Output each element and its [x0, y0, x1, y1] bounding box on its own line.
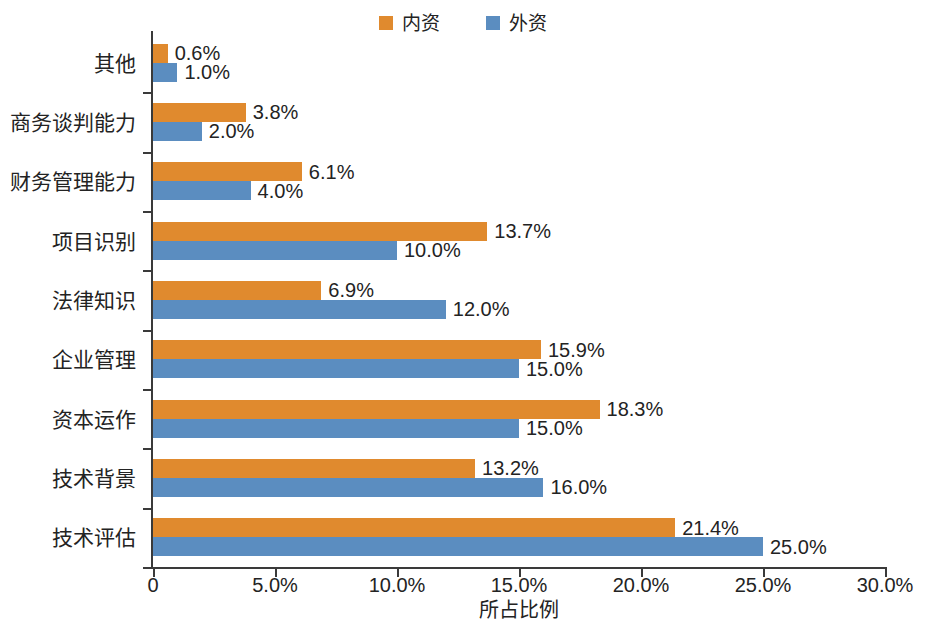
- bar[interactable]: [153, 340, 541, 359]
- y-axis-tick: [143, 567, 152, 569]
- category-label: 商务谈判能力: [10, 111, 136, 132]
- bar[interactable]: [153, 162, 302, 181]
- y-axis-tick: [143, 152, 152, 154]
- bar-group-内资: 0.6%: [153, 44, 885, 63]
- category-row: 商务谈判能力3.8%2.0%: [153, 92, 885, 151]
- bar-group-外资: 12.0%: [153, 300, 885, 319]
- bar[interactable]: [153, 478, 543, 497]
- bar[interactable]: [153, 459, 475, 478]
- bar-value-label: 2.0%: [209, 121, 255, 141]
- plot-area: 其他0.6%1.0%商务谈判能力3.8%2.0%财务管理能力6.1%4.0%项目…: [153, 33, 885, 567]
- category-row: 法律知识6.9%12.0%: [153, 270, 885, 329]
- bar-group-内资: 6.9%: [153, 281, 885, 300]
- category-row: 项目识别13.7%10.0%: [153, 211, 885, 270]
- bar[interactable]: [153, 222, 487, 241]
- bar-group-内资: 13.2%: [153, 459, 885, 478]
- y-axis-tick: [143, 270, 152, 272]
- category-label: 项目识别: [52, 230, 136, 251]
- bar-group-内资: 21.4%: [153, 518, 885, 537]
- bar-chart: 内资外资 其他0.6%1.0%商务谈判能力3.8%2.0%财务管理能力6.1%4…: [0, 0, 925, 625]
- bar-value-label: 4.0%: [258, 181, 304, 201]
- bar[interactable]: [153, 400, 600, 419]
- bar[interactable]: [153, 537, 763, 556]
- bar-value-label: 25.0%: [770, 537, 827, 557]
- bar-value-label: 6.9%: [328, 280, 374, 300]
- bar[interactable]: [153, 241, 397, 260]
- bar-value-label: 3.8%: [253, 102, 299, 122]
- bar[interactable]: [153, 122, 202, 141]
- category-row: 财务管理能力6.1%4.0%: [153, 152, 885, 211]
- bar-group-内资: 3.8%: [153, 103, 885, 122]
- y-axis-tick: [143, 330, 152, 332]
- category-row: 技术背景13.2%16.0%: [153, 448, 885, 507]
- x-axis-tick-label: 20.0%: [613, 575, 670, 595]
- x-axis-tick-label: 0: [147, 575, 158, 595]
- bar-value-label: 16.0%: [550, 477, 607, 497]
- bar-group-外资: 10.0%: [153, 241, 885, 260]
- bar[interactable]: [153, 103, 246, 122]
- bar[interactable]: [153, 44, 168, 63]
- category-label: 其他: [94, 52, 136, 73]
- bar-value-label: 1.0%: [184, 62, 230, 82]
- bar-group-外资: 15.0%: [153, 359, 885, 378]
- bar-group-内资: 15.9%: [153, 340, 885, 359]
- category-label: 技术评估: [52, 527, 136, 548]
- bar-value-label: 18.3%: [607, 399, 664, 419]
- bar-value-label: 13.7%: [494, 221, 551, 241]
- legend-label: 外资: [509, 14, 547, 33]
- category-label: 财务管理能力: [10, 171, 136, 192]
- bar-group-内资: 13.7%: [153, 222, 885, 241]
- bar-value-label: 15.0%: [526, 359, 583, 379]
- category-label: 技术背景: [52, 467, 136, 488]
- category-label: 企业管理: [52, 349, 136, 370]
- bar-value-label: 15.0%: [526, 418, 583, 438]
- bar[interactable]: [153, 419, 519, 438]
- bar-value-label: 12.0%: [453, 299, 510, 319]
- bar-value-label: 21.4%: [682, 518, 739, 538]
- x-axis-tick-label: 15.0%: [491, 575, 548, 595]
- bar[interactable]: [153, 63, 177, 82]
- bar-value-label: 10.0%: [404, 240, 461, 260]
- bar-group-外资: 4.0%: [153, 181, 885, 200]
- legend-swatch-icon: [486, 16, 500, 30]
- bar-group-内资: 6.1%: [153, 162, 885, 181]
- bar[interactable]: [153, 518, 675, 537]
- y-axis-tick: [143, 508, 152, 510]
- legend-entry[interactable]: 内资: [379, 14, 440, 33]
- x-axis-tick-label: 10.0%: [369, 575, 426, 595]
- bar-value-label: 6.1%: [309, 162, 355, 182]
- category-row: 其他0.6%1.0%: [153, 33, 885, 92]
- bar-group-外资: 16.0%: [153, 478, 885, 497]
- legend-label: 内资: [402, 14, 440, 33]
- category-row: 企业管理15.9%15.0%: [153, 330, 885, 389]
- bar-group-内资: 18.3%: [153, 400, 885, 419]
- bar-group-外资: 2.0%: [153, 122, 885, 141]
- legend-swatch-icon: [379, 16, 393, 30]
- bar-value-label: 15.9%: [548, 340, 605, 360]
- bar[interactable]: [153, 359, 519, 378]
- bar-group-外资: 1.0%: [153, 63, 885, 82]
- x-axis-title: 所占比例: [153, 600, 885, 620]
- legend-entry[interactable]: 外资: [486, 14, 547, 33]
- y-axis-tick: [143, 389, 152, 391]
- x-axis-tick-label: 5.0%: [252, 575, 298, 595]
- category-row: 技术评估21.4%25.0%: [153, 508, 885, 567]
- category-label: 资本运作: [52, 408, 136, 429]
- x-axis-tick-label: 25.0%: [735, 575, 792, 595]
- y-axis-tick: [143, 448, 152, 450]
- bar[interactable]: [153, 281, 321, 300]
- bar[interactable]: [153, 300, 446, 319]
- x-axis-tick-label: 30.0%: [857, 575, 914, 595]
- y-axis-tick: [143, 92, 152, 94]
- category-row: 资本运作18.3%15.0%: [153, 389, 885, 448]
- bar[interactable]: [153, 181, 251, 200]
- y-axis-tick: [143, 211, 152, 213]
- bar-group-外资: 15.0%: [153, 419, 885, 438]
- bar-value-label: 13.2%: [482, 458, 539, 478]
- x-axis-tick-labels: 05.0%10.0%15.0%20.0%25.0%30.0%: [153, 575, 885, 601]
- category-label: 法律知识: [52, 289, 136, 310]
- bar-value-label: 0.6%: [175, 43, 221, 63]
- bar-group-外资: 25.0%: [153, 537, 885, 556]
